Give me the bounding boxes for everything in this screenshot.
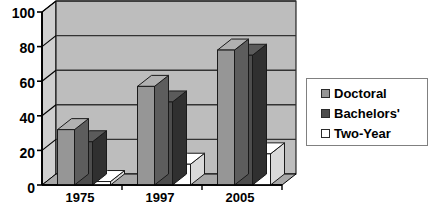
- legend-label-bachelors: Bachelors': [334, 107, 400, 120]
- y-tick-label-40: 40: [3, 111, 35, 125]
- bar-chart: 100 80 60 40 20 0 1975 1997 2005 Doctora…: [0, 0, 438, 216]
- legend-item-bachelors: Bachelors': [321, 105, 400, 121]
- x-tick-label-1975: 1975: [50, 191, 110, 204]
- chart-legend: Doctoral Bachelors' Two-Year: [306, 78, 428, 146]
- x-tick-label-1997: 1997: [130, 191, 190, 204]
- y-tick-label-80: 80: [3, 41, 35, 55]
- x-tick-label-2005: 2005: [210, 191, 270, 204]
- y-tick-label-0: 0: [3, 181, 35, 195]
- legend-label-two-year: Two-Year: [334, 127, 391, 140]
- y-tick-label-100: 100: [3, 6, 35, 20]
- y-tick-label-20: 20: [3, 146, 35, 160]
- legend-item-doctoral: Doctoral: [321, 85, 387, 101]
- y-tick-label-60: 60: [3, 76, 35, 90]
- legend-swatch-doctoral: [321, 89, 330, 98]
- legend-label-doctoral: Doctoral: [334, 87, 387, 100]
- legend-swatch-two-year: [321, 129, 330, 138]
- legend-item-two-year: Two-Year: [321, 125, 391, 141]
- legend-swatch-bachelors: [321, 109, 330, 118]
